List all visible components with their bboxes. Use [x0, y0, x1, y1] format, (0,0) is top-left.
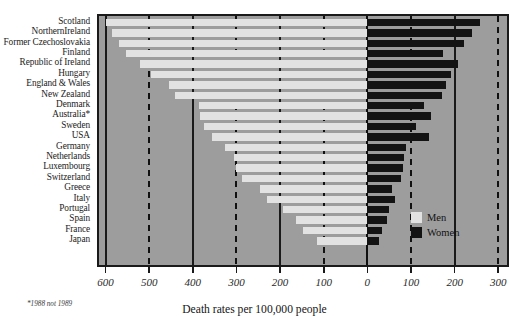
x-axis-tick-label: 600: [97, 276, 114, 288]
category-label: New Zealand: [41, 89, 90, 99]
bar-men: [234, 154, 367, 161]
bar-men: [140, 60, 367, 67]
legend-item-women: Women: [411, 225, 481, 240]
bar-women: [367, 133, 429, 140]
bar-men: [317, 237, 368, 244]
footnote: *1988 not 1989: [27, 300, 72, 308]
bar-women: [367, 164, 403, 171]
bar-women: [367, 81, 446, 88]
bar-row: [99, 142, 507, 152]
bar-row: [99, 111, 507, 121]
x-axis-tick-label: 500: [141, 276, 158, 288]
legend-item-men: Men: [411, 210, 481, 225]
bar-men: [303, 227, 368, 234]
legend-label-women: Women: [427, 227, 459, 238]
bar-row: [99, 70, 507, 80]
legend-swatch-men-icon: [411, 212, 422, 223]
category-label: Denmark: [56, 99, 90, 109]
bar-men: [106, 19, 368, 26]
bar-row: [99, 49, 507, 59]
bar-men: [296, 216, 368, 223]
legend-label-men: Men: [427, 212, 446, 223]
category-label: Germany: [56, 141, 90, 151]
x-axis-tick-label: 200: [446, 276, 463, 288]
x-axis-tick: [410, 267, 412, 273]
bar-women: [367, 102, 424, 109]
bar-row: [99, 38, 507, 48]
category-label: USA: [72, 130, 90, 140]
chart-page: ScotlandNorthernIrelandFormer Czechoslov…: [0, 0, 509, 324]
bar-women: [367, 92, 441, 99]
category-label: NorthernIreland: [32, 26, 90, 36]
category-label: Australia*: [52, 109, 90, 119]
bar-men: [119, 40, 368, 47]
x-axis-tick: [279, 267, 281, 273]
category-label: Netherlands: [46, 151, 90, 161]
bar-women: [367, 185, 392, 192]
bar-women: [367, 71, 450, 78]
x-axis-tick: [148, 267, 150, 273]
bar-row: [99, 184, 507, 194]
x-axis-tick: [323, 267, 325, 273]
bar-men: [283, 206, 367, 213]
bar-women: [367, 40, 463, 47]
legend: Men Women: [411, 210, 481, 240]
bar-men: [260, 185, 367, 192]
bar-men: [225, 144, 368, 151]
bar-men: [126, 50, 367, 57]
category-label: France: [65, 224, 90, 234]
bar-women: [367, 237, 379, 244]
x-axis-tick-label: 300: [490, 276, 507, 288]
category-label: Spain: [69, 213, 90, 223]
bar-men: [200, 112, 367, 119]
bar-row: [99, 28, 507, 38]
bar-row: [99, 194, 507, 204]
x-axis-tick: [454, 267, 456, 273]
category-label: Former Czechoslovakia: [4, 37, 90, 47]
bar-row: [99, 132, 507, 142]
category-label: Greece: [64, 182, 90, 192]
x-axis-title: Death rates per 100,000 people: [0, 303, 509, 316]
x-axis-tick-label: 0: [365, 276, 371, 288]
legend-swatch-women-icon: [411, 227, 422, 238]
bar-women: [367, 144, 406, 151]
bar-men: [242, 175, 368, 182]
bar-row: [99, 59, 507, 69]
category-label: Sweden: [61, 120, 90, 130]
x-axis-tick-label: 400: [185, 276, 202, 288]
bar-women: [367, 196, 395, 203]
bar-men: [212, 133, 368, 140]
bar-women: [367, 19, 480, 26]
x-axis-tick-label: 100: [403, 276, 420, 288]
category-label: Hungary: [58, 68, 90, 78]
x-axis-tick-label: 300: [228, 276, 245, 288]
bar-women: [367, 29, 471, 36]
bar-women: [367, 206, 389, 213]
bar-women: [367, 50, 442, 57]
x-axis-tick-label: 100: [315, 276, 332, 288]
x-axis-tick: [497, 267, 499, 273]
bar-women: [367, 175, 401, 182]
bar-men: [204, 123, 368, 130]
bar-row: [99, 174, 507, 184]
bar-men: [112, 29, 367, 36]
bar-men: [199, 102, 367, 109]
bar-women: [367, 112, 431, 119]
bar-women: [367, 60, 457, 67]
category-label: England & Wales: [26, 78, 90, 88]
bar-men: [169, 81, 368, 88]
category-label: Republic of Ireland: [20, 57, 90, 67]
bar-row: [99, 80, 507, 90]
category-label: Portugal: [59, 203, 90, 213]
x-axis-tick: [367, 267, 369, 273]
bar-row: [99, 18, 507, 28]
bar-women: [367, 227, 382, 234]
category-axis-labels: ScotlandNorthernIrelandFormer Czechoslov…: [0, 14, 94, 267]
category-label: Italy: [73, 193, 90, 203]
bar-men: [236, 164, 367, 171]
category-label: Japan: [69, 234, 90, 244]
bar-row: [99, 101, 507, 111]
category-label: Finland: [62, 47, 90, 57]
bar-women: [367, 123, 415, 130]
bar-women: [367, 154, 404, 161]
